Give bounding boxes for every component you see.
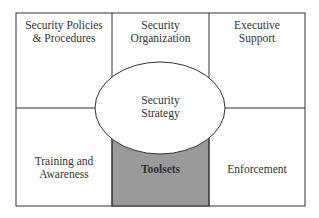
cell-label: Enforcement	[209, 163, 305, 176]
center-security-strategy: Security Strategy	[112, 94, 209, 120]
cell-security-organization: Security Organization	[112, 19, 209, 45]
cell-label: Executive	[209, 19, 305, 32]
center-label: Strategy	[112, 107, 209, 120]
cell-label: Organization	[112, 32, 209, 45]
cell-label: Training and	[16, 155, 112, 168]
cell-label: Support	[209, 32, 305, 45]
cell-enforcement: Enforcement	[209, 163, 305, 176]
cell-label: Toolsets	[112, 163, 209, 176]
cell-label: Awareness	[16, 168, 112, 181]
cell-toolsets: Toolsets	[112, 163, 209, 176]
cell-training-awareness: Training and Awareness	[16, 155, 112, 181]
cell-security-policies: Security Policies & Procedures	[16, 19, 112, 45]
center-label: Security	[112, 94, 209, 107]
cell-label: Security Policies	[16, 19, 112, 32]
cell-executive-support: Executive Support	[209, 19, 305, 45]
cell-label: Security	[112, 19, 209, 32]
cell-label: & Procedures	[16, 32, 112, 45]
